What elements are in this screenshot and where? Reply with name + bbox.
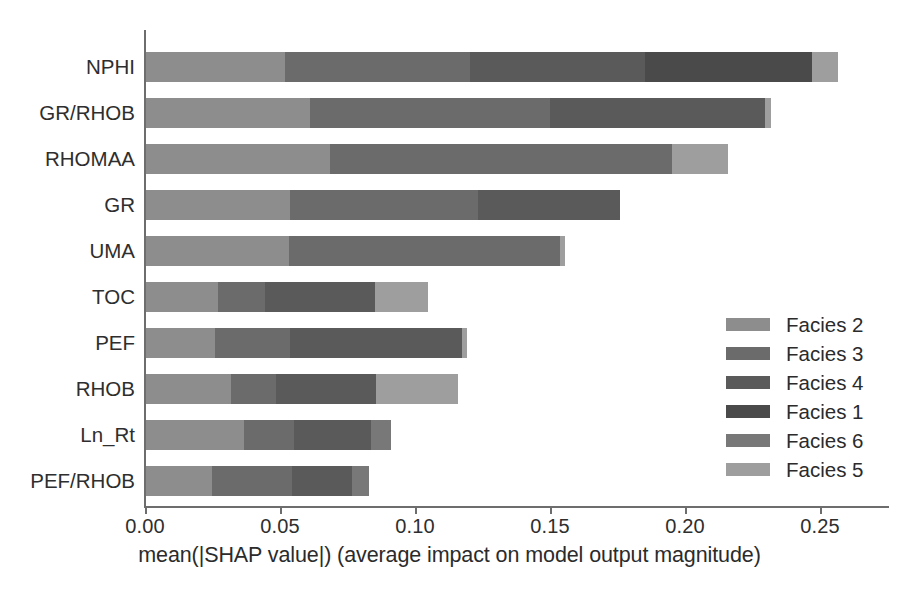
x-tick-label: 0.00 — [125, 515, 165, 538]
bar-segment — [812, 52, 838, 82]
bar-row — [146, 282, 428, 312]
bar-segment — [294, 420, 371, 450]
legend-item[interactable]: Facies 2 — [726, 310, 863, 339]
y-tick-label: GR — [0, 193, 135, 217]
bar-segment — [146, 144, 330, 174]
y-tick-label: NPHI — [0, 55, 135, 79]
bar-segment — [244, 420, 294, 450]
bar-row — [146, 374, 458, 404]
y-tick-label: GR/RHOB — [0, 101, 135, 125]
bar-segment — [375, 282, 428, 312]
bar-segment — [146, 420, 244, 450]
bar-segment — [285, 52, 470, 82]
bar-segment — [289, 236, 560, 266]
bar-segment — [310, 98, 550, 128]
y-tick-label: TOC — [0, 285, 135, 309]
bar-segment — [231, 374, 276, 404]
legend-swatch — [726, 318, 770, 331]
bar-segment — [212, 466, 292, 496]
bar-segment — [146, 374, 231, 404]
legend-label: Facies 2 — [786, 313, 863, 337]
bar-segment — [470, 52, 645, 82]
bar-segment — [215, 328, 290, 358]
y-tick-label: PEF/RHOB — [0, 469, 135, 493]
bar-segment — [478, 190, 620, 220]
x-tick-label: 0.15 — [530, 515, 570, 538]
bar-segment — [265, 282, 375, 312]
bar-segment — [645, 52, 812, 82]
x-axis-line — [144, 506, 889, 508]
bar-row — [146, 52, 838, 82]
bar-segment — [352, 466, 369, 496]
y-tick-label: RHOB — [0, 377, 135, 401]
bar-segment — [376, 374, 458, 404]
bar-segment — [276, 374, 376, 404]
x-tick-mark — [415, 507, 417, 514]
legend-label: Facies 3 — [786, 342, 863, 366]
x-tick-label: 0.10 — [395, 515, 435, 538]
y-tick-label: Ln_Rt — [0, 423, 135, 447]
bar-row — [146, 466, 369, 496]
bar-row — [146, 236, 565, 266]
legend-swatch — [726, 434, 770, 447]
bar-segment — [290, 328, 462, 358]
bar-segment — [146, 282, 218, 312]
legend-item[interactable]: Facies 1 — [726, 397, 863, 426]
y-tick-label: PEF — [0, 331, 135, 355]
legend-item[interactable]: Facies 3 — [726, 339, 863, 368]
bar-segment — [218, 282, 265, 312]
bar-segment — [146, 190, 290, 220]
bar-segment — [765, 98, 771, 128]
x-tick-mark — [685, 507, 687, 514]
bar-segment — [146, 98, 310, 128]
legend-label: Facies 4 — [786, 371, 863, 395]
x-tick-mark — [145, 507, 147, 514]
legend-swatch — [726, 463, 770, 476]
bar-row — [146, 420, 391, 450]
bar-segment — [146, 466, 212, 496]
bar-segment — [292, 466, 352, 496]
bar-row — [146, 144, 728, 174]
x-tick-mark — [280, 507, 282, 514]
bar-row — [146, 190, 620, 220]
y-tick-label: RHOMAA — [0, 147, 135, 171]
bar-segment — [371, 420, 391, 450]
bar-segment — [560, 236, 565, 266]
x-tick-label: 0.25 — [800, 515, 840, 538]
bar-row — [146, 98, 771, 128]
legend-swatch — [726, 376, 770, 389]
legend-item[interactable]: Facies 6 — [726, 426, 863, 455]
legend-item[interactable]: Facies 5 — [726, 455, 863, 484]
legend-label: Facies 6 — [786, 429, 863, 453]
bar-segment — [146, 328, 215, 358]
legend-label: Facies 5 — [786, 458, 863, 482]
legend-item[interactable]: Facies 4 — [726, 368, 863, 397]
bar-segment — [146, 236, 289, 266]
bar-segment — [550, 98, 765, 128]
legend-swatch — [726, 405, 770, 418]
legend-swatch — [726, 347, 770, 360]
x-tick-label: 0.20 — [665, 515, 705, 538]
bar-segment — [462, 328, 467, 358]
bar-segment — [330, 144, 672, 174]
bar-segment — [146, 52, 285, 82]
y-tick-label: UMA — [0, 239, 135, 263]
x-axis-title: mean(|SHAP value|) (average impact on mo… — [0, 543, 899, 568]
legend-label: Facies 1 — [786, 400, 863, 424]
bar-segment — [672, 144, 728, 174]
bar-segment — [290, 190, 478, 220]
x-tick-mark — [820, 507, 822, 514]
legend: Facies 2Facies 3Facies 4Facies 1Facies 6… — [726, 310, 863, 484]
x-tick-label: 0.05 — [260, 515, 300, 538]
shap-summary-chart: NPHIGR/RHOBRHOMAAGRUMATOCPEFRHOBLn_RtPEF… — [0, 0, 899, 599]
bar-row — [146, 328, 467, 358]
x-tick-mark — [550, 507, 552, 514]
